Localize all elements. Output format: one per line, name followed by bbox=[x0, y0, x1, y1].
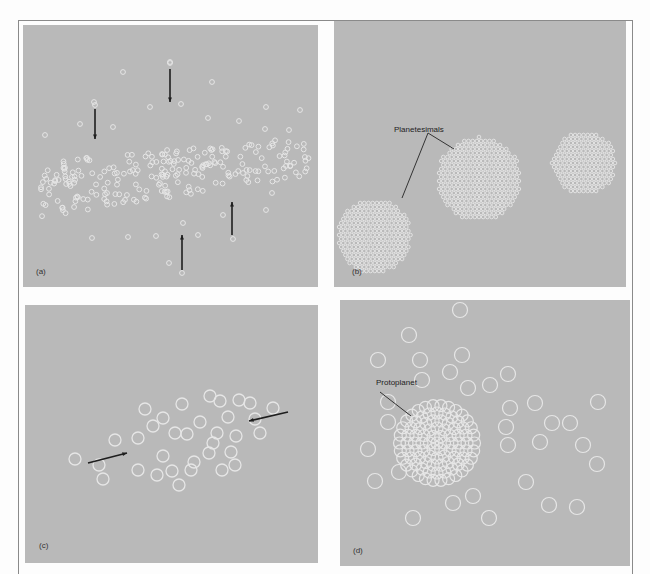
planetesimals-callout: Planetesimals bbox=[394, 125, 444, 134]
panel-b-label: (b) bbox=[352, 267, 362, 276]
panel-d-label: (d) bbox=[353, 546, 363, 555]
panel-c-label: (c) bbox=[39, 541, 48, 550]
panel-a-particles bbox=[23, 25, 318, 287]
panel-a: (a) bbox=[23, 25, 318, 287]
panel-a-label: (a) bbox=[36, 267, 46, 276]
panel-b-planetesimals bbox=[334, 21, 626, 287]
panel-d: Protoplanet (d) bbox=[340, 300, 630, 566]
panel-d-protoplanet bbox=[340, 300, 630, 566]
panel-c: (c) bbox=[25, 305, 318, 563]
panel-b: Planetesimals (b) bbox=[334, 21, 626, 287]
protoplanet-callout: Protoplanet bbox=[376, 378, 417, 387]
panel-c-particles bbox=[25, 305, 318, 563]
